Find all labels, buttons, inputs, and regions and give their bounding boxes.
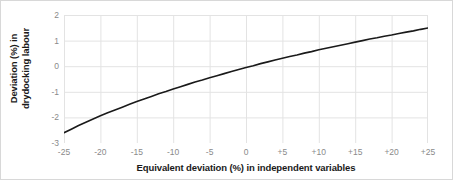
y-axis-tick-label: -2	[51, 112, 59, 122]
x-axis-tick-label: +25	[421, 147, 435, 157]
y-axis-title: Deviation (%) in drydocking labour	[8, 2, 31, 136]
x-axis-tick-label: -10	[167, 147, 179, 157]
x-axis-tick-label: +5	[278, 147, 288, 157]
y-axis-tick-label: 0	[54, 61, 59, 71]
y-axis-tick-label: 1	[54, 36, 59, 46]
x-axis-tick-label: -25	[58, 147, 70, 157]
plot-area: 210-1-2-3 -25-20-15-10-50+5+10+15+20+25	[64, 15, 428, 143]
y-axis-title-line-1: Deviation (%) in	[8, 2, 20, 136]
gridlines	[64, 15, 428, 143]
chart-figure: Deviation (%) in drydocking labour Equiv…	[0, 0, 453, 180]
x-axis-tick-label: +15	[348, 147, 362, 157]
x-axis-tick-label: 0	[244, 147, 249, 157]
x-axis-tick-label: -5	[206, 147, 214, 157]
y-axis-tick-label: 2	[54, 10, 59, 20]
line-chart-svg	[64, 15, 428, 143]
x-axis-tick-label: -20	[94, 147, 106, 157]
plot-canvas	[64, 15, 428, 143]
y-axis-tick-label: -1	[51, 87, 59, 97]
y-axis-title-line-2: drydocking labour	[19, 2, 31, 136]
x-axis-tick-label: -15	[131, 147, 143, 157]
x-axis-tick-label: +20	[384, 147, 398, 157]
x-axis-tick-label: +10	[312, 147, 326, 157]
x-axis-title: Equivalent deviation (%) in independent …	[64, 162, 428, 173]
